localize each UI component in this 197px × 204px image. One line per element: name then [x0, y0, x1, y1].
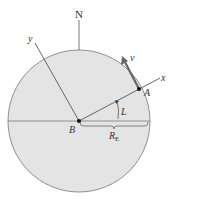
- velocity-label: v: [130, 52, 135, 63]
- point-b-label: B: [69, 124, 75, 135]
- point-a: [137, 87, 141, 91]
- latitude-label: L: [120, 106, 127, 117]
- point-a-label: A: [143, 87, 151, 98]
- y-axis-label: y: [27, 33, 33, 44]
- point-b: [77, 119, 81, 123]
- earth-rotation-diagram: N y x v A B L RE: [0, 0, 197, 204]
- north-label: N: [75, 8, 83, 20]
- x-axis-label: x: [160, 72, 166, 83]
